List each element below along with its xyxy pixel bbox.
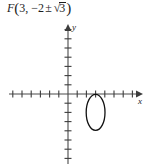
focus-y-base: −2: [31, 1, 44, 15]
focus-annotation-label: F(3, −2 ± √3): [7, 1, 71, 16]
ellipse-curve: [86, 94, 105, 130]
y-axis-label: y: [71, 22, 76, 32]
plus-minus-symbol: ±: [45, 1, 52, 15]
x-axis-label: x: [137, 96, 142, 106]
graph-canvas: x y: [0, 0, 147, 167]
radicand-value: 3: [59, 2, 66, 14]
square-root-expression: √3: [53, 1, 67, 16]
close-paren: ): [66, 0, 71, 16]
coordinate-plane-figure: F(3, −2 ± √3): [0, 0, 147, 167]
